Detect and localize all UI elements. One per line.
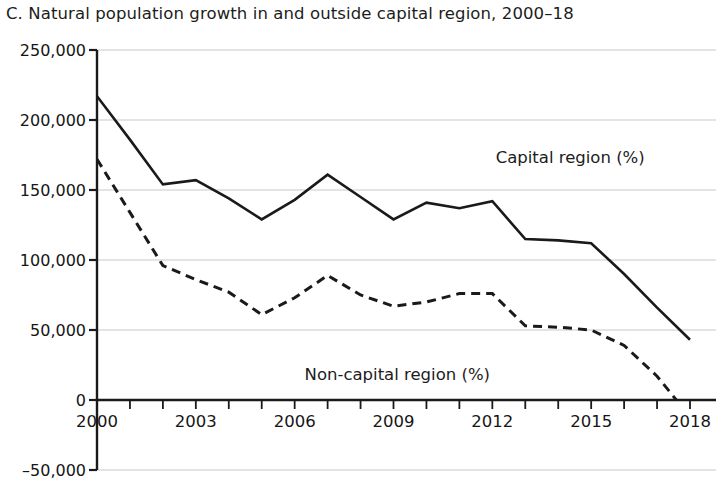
series-line-1 <box>97 96 690 340</box>
gridlines <box>97 50 716 470</box>
series-line-2 <box>97 159 690 417</box>
plot-area <box>0 0 721 487</box>
x-axis-ticks <box>97 400 690 409</box>
chart-figure: C. Natural population growth in and outs… <box>0 0 721 487</box>
